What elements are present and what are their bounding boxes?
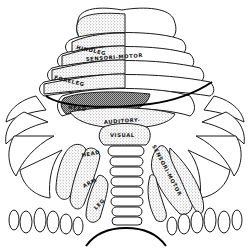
lateral-folia-left [6,96,62,198]
label-visual: VISUAL [110,132,135,138]
flocculi-left [9,208,83,235]
folia-upper [40,33,214,97]
cerebellum-diagram: HINDLEG SENSORI-MOTOR FORELEG HEAD AUDIT… [0,0,251,251]
vermis [99,124,150,226]
brainstem-outline [86,228,166,246]
